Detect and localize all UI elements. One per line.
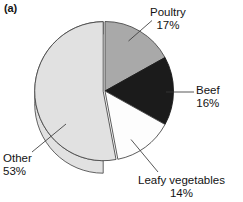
slice-label-leafy-vegetables-name: Leafy vegetables <box>138 174 225 186</box>
slice-label-beef-name: Beef <box>196 84 220 96</box>
slice-label-poultry-percent: 17% <box>150 19 186 32</box>
slice-label-beef: Beef 16% <box>196 84 220 109</box>
figure-panel: (a) <box>0 0 243 202</box>
slice-label-poultry: Poultry 17% <box>150 6 186 31</box>
slice-label-leafy-vegetables-percent: 14% <box>138 187 225 200</box>
slice-label-poultry-name: Poultry <box>150 6 186 18</box>
slice-label-other-percent: 53% <box>3 165 32 178</box>
slice-label-other: Other 53% <box>3 152 32 177</box>
pie-top-face <box>35 22 174 161</box>
slice-label-beef-percent: 16% <box>196 97 220 110</box>
slice-label-other-name: Other <box>3 152 32 164</box>
slice-label-leafy-vegetables: Leafy vegetables 14% <box>138 174 225 199</box>
